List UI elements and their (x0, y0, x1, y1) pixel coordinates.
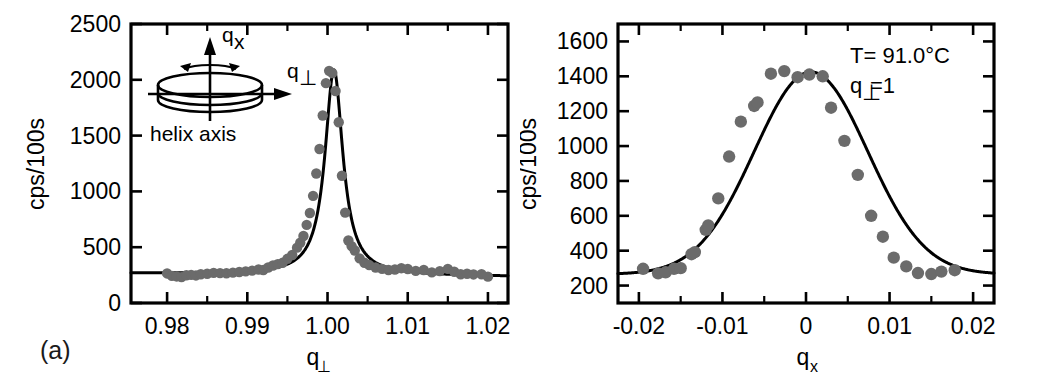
panel-b-xtick-label: 0.02 (951, 313, 996, 339)
panel-b-data-point (877, 231, 889, 243)
panel-a-data-point (327, 68, 337, 78)
panel-a-data-point (334, 117, 344, 127)
panel-b-xlabel: q x (797, 344, 818, 375)
panel-a-data-point (314, 144, 324, 154)
inset-horizontal-arrowhead (274, 88, 292, 100)
panel-b-fit-curve (618, 72, 994, 274)
panel-b-ytick-label: 600 (570, 203, 608, 229)
panel-b-data-point (912, 267, 924, 279)
panel-b-data-point (825, 102, 837, 114)
panel-b-data-point (723, 150, 735, 162)
panel-b-annotation-temperature: T= 91.0°C (850, 43, 950, 68)
panel-a-xtick-label: 1.02 (466, 313, 511, 339)
panel-b-annotation-q-value: =1 (870, 73, 895, 98)
panel-b-data-point (674, 262, 686, 274)
panel-b-xtick-label: 0.01 (867, 313, 912, 339)
panel-b-xtick-label: 0 (800, 313, 813, 339)
panel-a-xlabel-sub: ⊥ (317, 358, 331, 375)
panel-a-data-point (301, 220, 311, 230)
panel-b-data-point (689, 246, 701, 258)
inset-helix-axis-caption: helix axis (150, 122, 236, 145)
panel-b-data-point (888, 251, 900, 263)
panel-b-data-point (778, 65, 790, 77)
panel-a-xtick-label: 1.01 (385, 313, 430, 339)
panel-b-ytick-label: 200 (570, 273, 608, 299)
panel-b-annotation-qperp: q ⊥ =1 (850, 73, 895, 105)
panel-b-annotation-q-base: q (850, 73, 862, 98)
panel-b-data-point (838, 135, 850, 147)
panel-a-data-point (308, 191, 318, 201)
panel-a-data-point (321, 78, 331, 88)
panel-a-ytick-label: 500 (83, 234, 121, 260)
inset-label-qperp-base: q (287, 59, 299, 82)
panel-b-ytick-label: 1000 (557, 133, 608, 159)
panel-b-ytick-label: 1200 (557, 98, 608, 124)
panel-a-ytick-label: 1000 (70, 178, 121, 204)
panel-a-data-point (483, 271, 493, 281)
panel-a-ytick-label: 0 (108, 290, 121, 316)
panel-b-data-point (637, 263, 649, 275)
panel-a-xtick-label: 0.99 (225, 313, 270, 339)
inset-label-qx-sub: x (234, 30, 245, 53)
panel-b-data-point (765, 68, 777, 80)
panel-a-data-point (311, 168, 321, 178)
figure-root: 0.980.991.001.011.0205001000150020002500… (0, 0, 1040, 385)
panel-b-data-point (712, 192, 724, 204)
panel-b-data-point (702, 219, 714, 231)
panel-a-tag: (a) (40, 336, 71, 365)
panel-b-plot: -0.02-0.0100.010.02200400600800100012001… (520, 0, 1040, 385)
panel-a-xlabel: q ⊥ (307, 344, 331, 375)
inset-vertical-arrowhead (204, 37, 216, 55)
panel-a-ylabel: cps/100s (23, 118, 49, 210)
panel-b-ylabel: cps/100s (520, 118, 541, 210)
panel-a-ytick-label: 2000 (70, 67, 121, 93)
panel-b-ytick-label: 400 (570, 238, 608, 264)
panel-a-data-point (298, 231, 308, 241)
panel-a-inset-diagram: q x q ⊥ helix axis (148, 23, 317, 145)
panel-b-xtick-label: -0.02 (613, 313, 665, 339)
panel-b-ytick-label: 1600 (557, 28, 608, 54)
panel-b-xlabel-sub: x (810, 358, 818, 375)
panel-a-data-point (337, 171, 347, 181)
inset-label-qperp-sub: ⊥ (299, 66, 317, 89)
panel-b-data-point (865, 210, 877, 222)
panel-b-xlabel-base: q (797, 344, 810, 370)
panel-a-xtick-label: 0.98 (145, 313, 190, 339)
inset-rotation-arrowhead-left (180, 63, 191, 72)
inset-label-qx: q x (222, 23, 245, 53)
panel-b-data-point (791, 71, 803, 83)
panel-b-data-points (637, 65, 961, 280)
panel-b-data-point (751, 96, 763, 108)
panel-a-xtick-label: 1.00 (305, 313, 350, 339)
panel-a: 0.980.991.001.011.0205001000150020002500… (0, 0, 520, 385)
panel-a-data-point (330, 86, 340, 96)
panel-a-data-point (340, 207, 350, 217)
panel-a-data-point (305, 208, 315, 218)
panel-a-ytick-label: 1500 (70, 123, 121, 149)
panel-b-data-point (852, 169, 864, 181)
panel-b-ytick-label: 800 (570, 168, 608, 194)
inset-rotation-arrowhead-right (229, 63, 240, 72)
panel-a-data-point (318, 110, 328, 120)
panel-b-data-point (735, 115, 747, 127)
panel-b-ytick-label: 1400 (557, 63, 608, 89)
inset-label-qperp: q ⊥ (287, 59, 317, 89)
panel-b-data-point (935, 265, 947, 277)
panel-b-data-point (817, 70, 829, 82)
panel-a-ytick-label: 2500 (70, 11, 121, 37)
panel-b: -0.02-0.0100.010.02200400600800100012001… (520, 0, 1040, 385)
panel-a-plot: 0.980.991.001.011.0205001000150020002500… (0, 0, 520, 385)
panel-b-xtick-label: -0.01 (696, 313, 748, 339)
panel-b-data-point (900, 260, 912, 272)
inset-label-qx-base: q (222, 23, 234, 46)
panel-b-data-point (803, 68, 815, 80)
panel-b-data-point (949, 264, 961, 276)
